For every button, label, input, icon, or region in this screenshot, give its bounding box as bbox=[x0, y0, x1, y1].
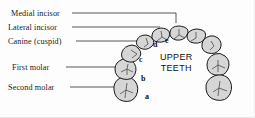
figure-canvas: Medial incisor Lateral incisor Canine (c… bbox=[0, 0, 255, 118]
label-lateral-incisor: Lateral incisor bbox=[8, 23, 57, 32]
label-medial-incisor: Medial incisor bbox=[11, 9, 60, 18]
tooth-second-molar-left bbox=[114, 77, 138, 101]
key-letter-a: a bbox=[145, 92, 149, 101]
key-letter-d: d bbox=[153, 40, 157, 49]
tooth-lateral-incisor-left bbox=[136, 35, 153, 49]
key-letter-b: b bbox=[141, 74, 145, 83]
leader-medial-incisor bbox=[72, 13, 176, 23]
tooth-first-molar-right bbox=[207, 53, 229, 75]
tooth-canine-right bbox=[202, 36, 221, 54]
upper-teeth-caption: UPPER TEETH bbox=[160, 52, 193, 74]
tooth-medial-incisor-right bbox=[170, 26, 188, 40]
label-first-molar: First molar bbox=[12, 63, 49, 72]
key-letter-c: c bbox=[139, 55, 143, 64]
caption-line-2: TEETH bbox=[160, 63, 193, 74]
caption-line-1: UPPER bbox=[160, 52, 193, 63]
tooth-canine-left bbox=[122, 45, 141, 62]
tooth-second-molar-right bbox=[206, 75, 232, 101]
key-letter-e: e bbox=[165, 36, 169, 45]
label-canine: Canine (cuspid) bbox=[8, 37, 62, 46]
label-second-molar: Second molar bbox=[8, 83, 54, 92]
